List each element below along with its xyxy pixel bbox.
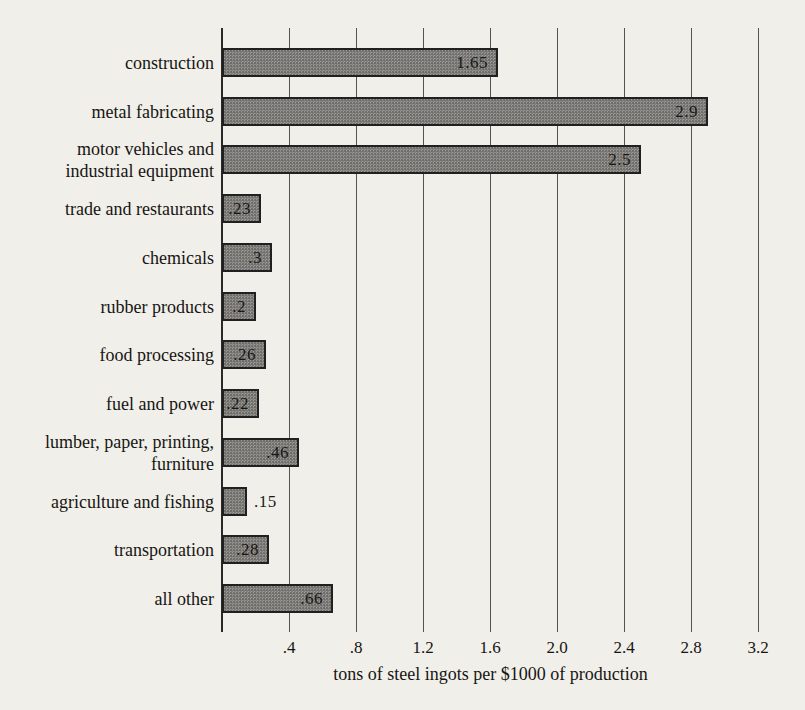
bar-value: .66: [300, 589, 331, 609]
bar-label: food processing: [0, 344, 214, 366]
bar: .66: [222, 584, 333, 613]
bar-label: all other: [0, 588, 214, 610]
bar-label-line: industrial equipment: [0, 160, 214, 182]
bar-label-line: all other: [0, 588, 214, 610]
bar-label: metal fabricating: [0, 101, 214, 123]
bar-value: .46: [266, 443, 297, 463]
bar: .28: [222, 535, 269, 564]
x-tick-label: 2.8: [680, 638, 701, 658]
x-tick-label: .8: [350, 638, 363, 658]
bar-value: .23: [228, 199, 259, 219]
bar-value: .28: [236, 540, 267, 560]
bar: [222, 487, 247, 516]
bar: .2: [222, 292, 256, 321]
bar: .3: [222, 243, 272, 272]
bar-label-line: rubber products: [0, 296, 214, 318]
bar-label: chemicals: [0, 247, 214, 269]
x-tick-label: 2.0: [546, 638, 567, 658]
bar-label-line: metal fabricating: [0, 101, 214, 123]
bar: .26: [222, 340, 266, 369]
bar: .22: [222, 389, 259, 418]
bar-label-line: motor vehicles and: [0, 138, 214, 160]
bar: 2.5: [222, 145, 641, 174]
x-axis-title: tons of steel ingots per $1000 of produc…: [222, 664, 759, 685]
bar-label-line: furniture: [0, 453, 214, 475]
bar-label-line: lumber, paper, printing,: [0, 431, 214, 453]
bar: .46: [222, 438, 299, 467]
bar-label-line: food processing: [0, 344, 214, 366]
bar-value: .26: [233, 345, 264, 365]
x-tick-label: .4: [283, 638, 296, 658]
bar-label-line: fuel and power: [0, 393, 214, 415]
x-tick-label: 1.2: [412, 638, 433, 658]
bar-label-line: construction: [0, 52, 214, 74]
bar-label: rubber products: [0, 296, 214, 318]
bar-label: fuel and power: [0, 393, 214, 415]
bar: 1.65: [222, 48, 498, 77]
bar-label-line: transportation: [0, 539, 214, 561]
bar-label: transportation: [0, 539, 214, 561]
bar-label-line: chemicals: [0, 247, 214, 269]
x-tick-label: 3.2: [747, 638, 768, 658]
bar-label: agriculture and fishing: [0, 491, 214, 513]
bar: 2.9: [222, 97, 708, 126]
bar-label: motor vehicles andindustrial equipment: [0, 138, 214, 182]
gridline: [758, 28, 759, 632]
bar-value: 1.65: [456, 53, 496, 73]
steel-ingots-per-production-bar-chart: tons of steel ingots per $1000 of produc…: [0, 0, 805, 710]
bar-value: .15: [254, 492, 277, 512]
bar-value: .3: [248, 248, 270, 268]
x-tick-label: 2.4: [613, 638, 634, 658]
bar-label: lumber, paper, printing,furniture: [0, 431, 214, 475]
bar-label-line: trade and restaurants: [0, 198, 214, 220]
bar-value: .2: [232, 297, 254, 317]
x-tick-label: 1.6: [479, 638, 500, 658]
bar-value: .22: [226, 394, 257, 414]
bar: .23: [222, 194, 261, 223]
bar-label-line: agriculture and fishing: [0, 491, 214, 513]
bar-value: 2.5: [608, 150, 639, 170]
bar-value: 2.9: [675, 102, 706, 122]
bar-label: construction: [0, 52, 214, 74]
bar-label: trade and restaurants: [0, 198, 214, 220]
